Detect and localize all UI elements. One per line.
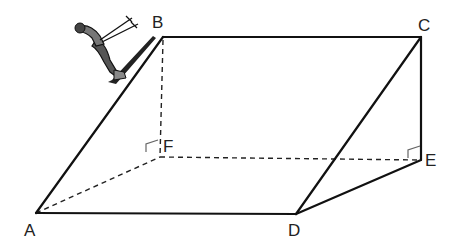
edge-AF — [36, 157, 160, 213]
wedge-diagram: A B C D E F — [0, 0, 456, 252]
edge-AB — [36, 37, 163, 213]
edge-FE — [160, 157, 421, 160]
vertex-label-B: B — [152, 13, 163, 32]
right-angle-marker-F — [146, 140, 158, 152]
edge-AD — [36, 213, 296, 214]
skier-icon — [75, 16, 156, 84]
vertex-label-F: F — [163, 137, 173, 156]
vertex-label-C: C — [418, 16, 430, 35]
vertex-label-D: D — [288, 221, 300, 240]
right-angle-marker-E — [408, 146, 420, 158]
vertex-label-A: A — [24, 221, 36, 240]
vertex-label-E: E — [425, 151, 436, 170]
